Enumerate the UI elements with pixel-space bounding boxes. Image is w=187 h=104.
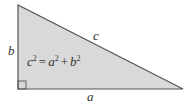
label-side-a: a (87, 89, 94, 104)
pythagorean-diagram: b c a c2=a2+b2 (0, 0, 187, 104)
label-hypotenuse-c: c (93, 28, 99, 43)
label-side-b: b (8, 43, 15, 58)
right-triangle (18, 5, 183, 89)
